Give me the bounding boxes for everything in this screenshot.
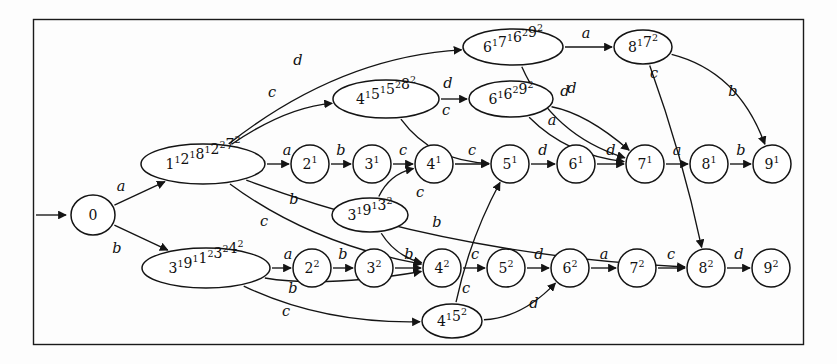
- transition-label: c: [462, 280, 470, 296]
- transition-label: c: [650, 65, 658, 81]
- transition-label: c: [282, 303, 290, 319]
- transition-label: c: [399, 142, 407, 158]
- transition-label: a: [283, 142, 292, 158]
- transition-label: d: [293, 52, 302, 68]
- state-node[interactable]: 42: [423, 249, 461, 287]
- transition-label: d: [538, 142, 547, 158]
- state-node[interactable]: 72: [618, 249, 656, 287]
- state-node[interactable]: 52: [487, 249, 525, 287]
- transition-label: d: [734, 246, 743, 262]
- transition-label: d: [534, 246, 543, 262]
- transition-label: a: [284, 246, 293, 262]
- transition-label: b: [289, 191, 298, 207]
- transition-label: b: [338, 246, 347, 262]
- figure-border: [34, 20, 804, 345]
- transition-label: b: [432, 214, 441, 230]
- transition-edge: [484, 283, 556, 320]
- automaton-diagram: 0112181227221314151617181914151528261629…: [0, 0, 837, 364]
- state-node[interactable]: 61: [557, 145, 595, 183]
- transition-label: b: [404, 246, 413, 262]
- state-node[interactable]: 4152: [422, 304, 482, 338]
- transition-label: a: [117, 178, 126, 194]
- state-node[interactable]: 3191123242: [142, 238, 270, 289]
- transition-label: b: [736, 142, 745, 158]
- transition-label: c: [667, 246, 675, 262]
- figure-canvas: 0112181227221314151617181914151528261629…: [0, 0, 837, 364]
- transition-label: c: [471, 246, 479, 262]
- transition-label: b: [112, 240, 121, 256]
- transition-edge: [232, 103, 333, 144]
- state-node[interactable]: 51: [491, 145, 529, 183]
- transition-label: c: [260, 213, 268, 229]
- state-node[interactable]: 71: [626, 145, 664, 183]
- transition-label: b: [336, 142, 345, 158]
- state-node[interactable]: 41: [415, 145, 453, 183]
- state-node[interactable]: 319132: [332, 195, 408, 233]
- transition-label: d: [606, 142, 615, 158]
- transition-label: d: [443, 75, 452, 91]
- state-node[interactable]: 61716292: [463, 22, 563, 66]
- transition-edge: [114, 225, 167, 250]
- state-node[interactable]: 1121812272: [141, 134, 265, 185]
- node-layer: 0112181227221314151617181914151528261629…: [71, 22, 791, 339]
- transition-label: a: [582, 25, 591, 41]
- transition-label: a: [600, 246, 609, 262]
- state-node[interactable]: 81: [690, 145, 728, 183]
- transition-label: b: [728, 83, 737, 99]
- state-node[interactable]: 32: [355, 249, 393, 287]
- transition-label: c: [416, 184, 424, 200]
- transition-label: b: [288, 280, 297, 296]
- state-node[interactable]: 616292: [469, 79, 553, 118]
- state-node[interactable]: 91: [753, 145, 791, 183]
- transition-edge: [244, 286, 420, 322]
- state-node[interactable]: 0: [71, 195, 115, 235]
- state-node[interactable]: 8172: [614, 30, 672, 64]
- transition-edge: [672, 54, 765, 144]
- transition-label: a: [548, 112, 557, 128]
- state-node[interactable]: 41515282: [333, 74, 439, 119]
- transition-label: d: [529, 295, 538, 311]
- state-label: 0: [89, 207, 98, 223]
- state-node[interactable]: 21: [291, 145, 329, 183]
- state-node[interactable]: 82: [687, 249, 725, 287]
- transition-label: d: [560, 83, 569, 99]
- state-node[interactable]: 62: [551, 249, 589, 287]
- transition-label: a: [673, 142, 682, 158]
- state-node[interactable]: 92: [752, 249, 790, 287]
- transition-label: c: [442, 102, 450, 118]
- transition-label: c: [468, 142, 476, 158]
- state-node[interactable]: 31: [353, 145, 391, 183]
- state-node[interactable]: 22: [293, 249, 331, 287]
- transition-label: c: [268, 84, 276, 100]
